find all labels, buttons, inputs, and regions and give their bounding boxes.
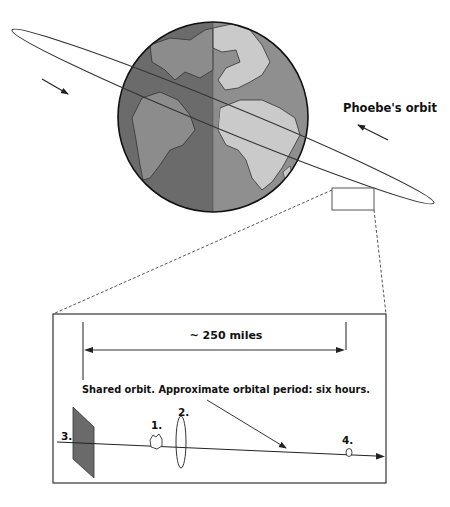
orbit-label: Phoebe's orbit [343,101,437,115]
zoom-region-box [332,188,374,210]
inset-panel: ~ 250 miles Shared orbit. Approximate or… [53,314,386,483]
distance-label: ~ 250 miles [190,329,263,342]
orbit-diagram: Phoebe's orbit ~ 250 miles Shared orbit.… [0,0,450,507]
object-4-body [346,449,352,457]
object-1-label: 1. [151,419,162,431]
earth-globe [110,15,318,220]
object-3-label: 3. [61,430,72,442]
orbit-direction-arrow-right [358,125,388,140]
object-2-label: 2. [178,406,189,418]
object-4-label: 4. [342,434,353,446]
zoom-connector-right [374,210,386,314]
orbit-caption: Shared orbit. Approximate orbital period… [82,383,370,395]
orbit-direction-arrow-left [42,79,68,94]
